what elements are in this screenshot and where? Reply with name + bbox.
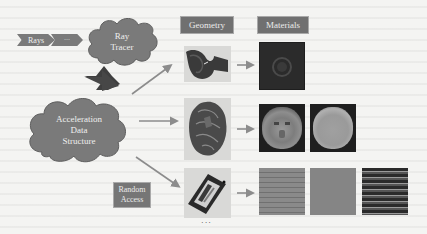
geometry-header-text: Geometry <box>189 20 225 30</box>
more-rows-indicator: ··· <box>201 218 212 227</box>
materials-header: Materials <box>257 16 309 34</box>
lion-face-gray-texture-image <box>310 104 356 152</box>
geometry-header: Geometry <box>180 16 234 34</box>
brick-wall-texture-image <box>259 168 305 215</box>
arrow-to-geometry-row3 <box>136 157 178 186</box>
curved-sheet-model-image <box>184 46 231 82</box>
box-object-model-image <box>184 168 231 218</box>
lion-head-model-image <box>184 98 231 160</box>
dark-brick-texture-image <box>362 168 408 215</box>
lion-face-color-texture-image <box>259 104 305 152</box>
dark-circular-texture-image <box>259 42 305 90</box>
materials-header-text: Materials <box>266 20 300 30</box>
flat-gray-texture-image <box>310 168 356 215</box>
arrow-to-geometry-row1 <box>132 66 170 94</box>
